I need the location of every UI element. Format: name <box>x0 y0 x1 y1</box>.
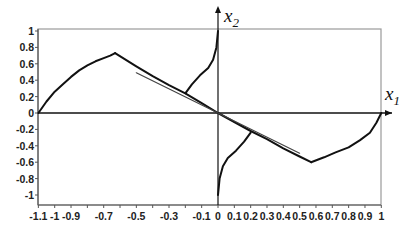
x-tick-label: -0.5 <box>127 210 145 222</box>
y-tick-label: 0.2 <box>19 91 34 103</box>
upper-branch <box>185 31 218 93</box>
x-tick-label: -1.1 <box>29 210 47 222</box>
x-tick-label: -0.3 <box>160 210 178 222</box>
y-axis-label: x2 <box>223 5 239 30</box>
trajectory-diagonal <box>115 53 311 162</box>
x-tick-label: 0.2 <box>243 210 258 222</box>
x-tick-label: -0.7 <box>95 210 113 222</box>
y-axis-ticks: 10.80.60.40.20-0.2-0.4-0.6-0.8-1 <box>16 25 38 201</box>
y-tick-label: -0.4 <box>16 140 34 152</box>
y-tick-label: 0 <box>28 107 34 119</box>
y-tick-label: 1 <box>28 25 34 37</box>
y-tick-label: -1 <box>25 189 34 201</box>
x-tick-label: 0.6 <box>309 210 324 222</box>
x-tick-label: -1 <box>50 210 59 222</box>
y-tick-label: 0.6 <box>19 58 34 70</box>
y-tick-label: 0.8 <box>19 41 34 53</box>
phase-plot: 10.80.60.40.20-0.2-0.4-0.6-0.8-1 -1.1-1-… <box>0 0 408 231</box>
x-tick-label: 0.4 <box>276 210 291 222</box>
x-tick-label: -0.9 <box>62 210 80 222</box>
x-axis-ticks: -1.1-1-0.9-0.7-0.5-0.3-0.100.10.20.30.40… <box>29 205 384 222</box>
x-tick-label: 0 <box>215 210 221 222</box>
y-tick-label: -0.8 <box>16 173 34 185</box>
x-axis-label: x1 <box>384 83 400 108</box>
x-tick-label: 0.7 <box>325 210 340 222</box>
plot-frame <box>38 29 381 205</box>
axis-variable-labels: x2 x1 <box>223 5 400 108</box>
y-tick-label: 0.4 <box>19 74 34 86</box>
x1-axis-arrow-icon <box>385 110 392 116</box>
x-tick-label: -0.1 <box>193 210 211 222</box>
lower-branch <box>218 133 251 195</box>
x-tick-label: 0.1 <box>227 210 242 222</box>
x-tick-label: 1 <box>378 210 384 222</box>
x-tick-label: 0.8 <box>341 210 356 222</box>
trajectory-left-arc <box>38 53 115 113</box>
y-tick-label: -0.6 <box>16 156 34 168</box>
trajectory-right-arc <box>311 113 381 162</box>
coordinate-axes <box>38 6 392 205</box>
plot-border <box>38 29 381 205</box>
x-tick-label: 0.5 <box>292 210 307 222</box>
x2-axis-arrow-icon <box>215 6 221 13</box>
y-tick-label: -0.2 <box>16 123 34 135</box>
x-tick-label: 0.9 <box>358 210 373 222</box>
x-tick-label: 0.3 <box>260 210 275 222</box>
